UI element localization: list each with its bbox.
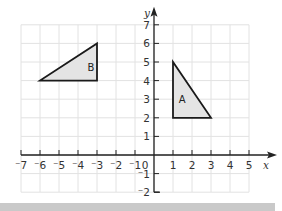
x-tick-label: ⁻5 (53, 159, 65, 171)
triangle-label-a: A (179, 94, 186, 105)
x-tick-label: ⁻4 (72, 159, 85, 171)
x-tick-label: ⁻2 (110, 159, 122, 171)
coordinate-plane: AB⁻7⁻6⁻5⁻4⁻3⁻2⁻1012345⁻2⁻11234567xy (0, 0, 282, 211)
x-tick-label: 4 (227, 159, 234, 171)
bottom-band (0, 203, 275, 211)
y-tick-label: ⁻1 (138, 168, 150, 180)
x-tick-label: 5 (246, 159, 253, 171)
y-tick-label: 2 (143, 112, 150, 124)
y-tick-label: ⁻2 (138, 186, 150, 198)
y-tick-label: 6 (143, 37, 150, 49)
triangle-label-b: B (88, 62, 95, 73)
x-tick-label: ⁻3 (91, 159, 103, 171)
x-tick-label: 3 (208, 159, 215, 171)
y-axis-label: y (143, 7, 151, 19)
x-tick-label: 2 (189, 159, 196, 171)
y-tick-label: 5 (143, 56, 150, 68)
y-tick-label: 4 (143, 75, 150, 87)
x-axis-label: x (263, 159, 269, 171)
x-tick-label: ⁻7 (15, 159, 27, 171)
y-tick-label: 7 (143, 19, 150, 31)
y-tick-label: 3 (143, 93, 150, 105)
x-tick-label: ⁻6 (34, 159, 47, 171)
x-tick-label: 1 (170, 159, 177, 171)
y-tick-label: 1 (143, 130, 150, 142)
